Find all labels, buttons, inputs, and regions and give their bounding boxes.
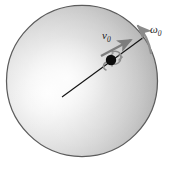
contact-point-dot: [106, 55, 116, 65]
bowling-ball: [7, 6, 158, 157]
figure-canvas: v0 ω0: [0, 0, 174, 176]
ball-highlight: [7, 6, 158, 157]
physics-figure: v0 ω0: [0, 0, 174, 176]
angular-velocity-label: ω0: [150, 23, 162, 38]
velocity-subscript: 0: [107, 35, 111, 44]
angular-velocity-subscript: 0: [158, 29, 162, 38]
